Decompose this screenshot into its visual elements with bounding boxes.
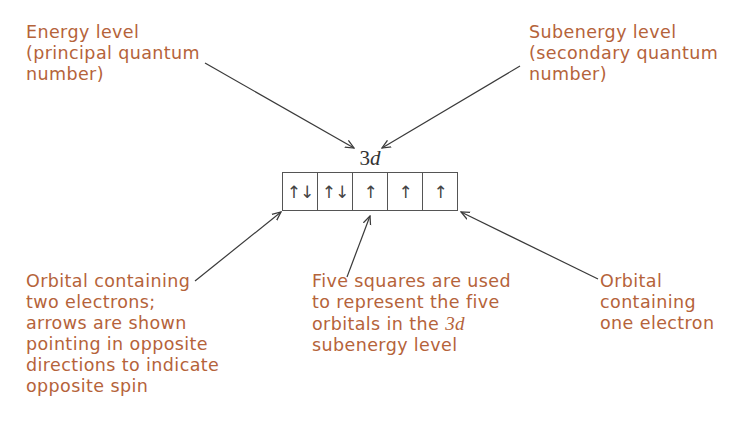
label-line: pointing in opposite	[26, 334, 219, 355]
orbital-box: ↑↓	[283, 173, 318, 210]
label-line: number)	[26, 64, 200, 85]
arrow-subenergy-level	[382, 66, 520, 148]
arrow-five-squares	[347, 216, 370, 277]
label-subenergy-level: Subenergy level (secondary quantum numbe…	[529, 22, 718, 85]
label-two-electrons: Orbital containing two electrons; arrows…	[26, 271, 219, 397]
label-text: orbitals in the	[312, 314, 445, 334]
label-line: opposite spin	[26, 376, 219, 397]
orbital-box: ↑	[353, 173, 388, 210]
label-line: containing	[600, 292, 714, 313]
label-line: Five squares are used	[312, 271, 511, 292]
label-one-electron: Orbital containing one electron	[600, 271, 714, 334]
label-line: arrows are shown	[26, 313, 219, 334]
label-line: directions to indicate	[26, 355, 219, 376]
label-five-squares: Five squares are used to represent the f…	[312, 271, 511, 356]
orbital-box: ↑	[423, 173, 457, 210]
label-line: (secondary quantum	[529, 43, 718, 64]
label-line: number)	[529, 64, 718, 85]
orbital-box: ↑	[388, 173, 423, 210]
label-line: one electron	[600, 313, 714, 334]
label-line: Orbital	[600, 271, 714, 292]
principal-number: 3	[360, 146, 371, 170]
arrow-energy-level	[205, 63, 354, 148]
sublevel-label: 3d	[346, 146, 394, 171]
label-line: (principal quantum	[26, 43, 200, 64]
sublevel-italic: 3d	[445, 313, 465, 334]
label-energy-level: Energy level (principal quantum number)	[26, 22, 200, 85]
orbital-box: ↑↓	[318, 173, 353, 210]
orbital-boxes: ↑↓ ↑↓ ↑ ↑ ↑	[282, 172, 458, 211]
arrow-one-electron	[461, 212, 598, 279]
label-line: orbitals in the 3d	[312, 313, 511, 335]
label-line: subenergy level	[312, 335, 511, 356]
label-line: to represent the five	[312, 292, 511, 313]
label-line: Orbital containing	[26, 271, 219, 292]
label-line: two electrons;	[26, 292, 219, 313]
label-line: Energy level	[26, 22, 200, 43]
sublevel-letter: d	[370, 146, 381, 170]
label-line: Subenergy level	[529, 22, 718, 43]
